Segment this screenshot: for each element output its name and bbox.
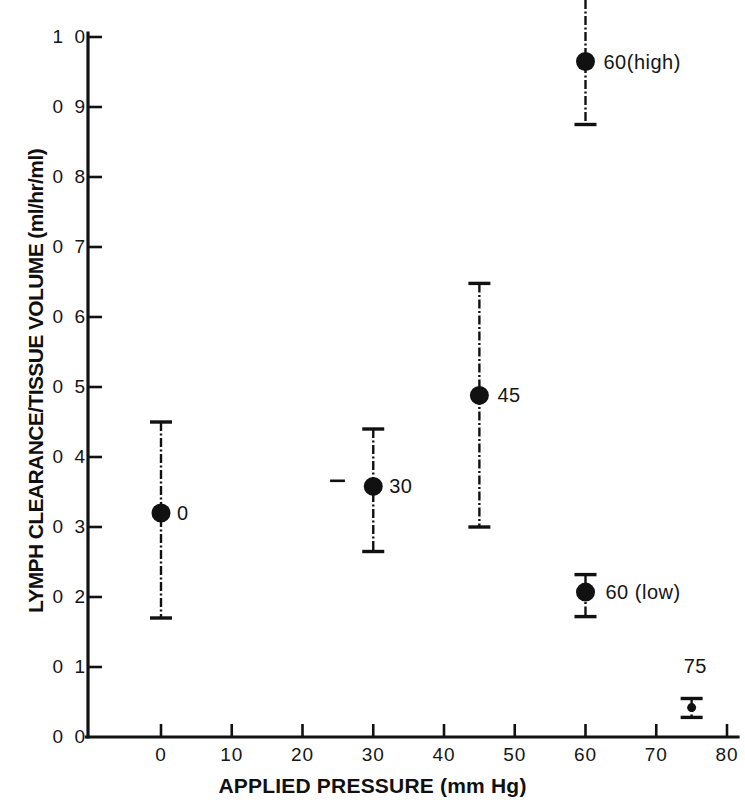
data-point-group: [362, 429, 384, 552]
x-tick-label: 60: [561, 744, 611, 766]
data-point-group: [468, 283, 490, 527]
x-tick-label: 20: [278, 744, 328, 766]
x-tick-label: 0: [136, 744, 186, 766]
data-point-marker[interactable]: [687, 703, 696, 712]
data-point-group: [681, 699, 703, 718]
data-point-marker[interactable]: [152, 504, 171, 523]
y-tick-label: 0 2: [16, 586, 88, 608]
x-tick-label: 50: [490, 744, 540, 766]
data-point-label: 60(high): [604, 50, 681, 73]
data-point-group: [575, 575, 597, 617]
data-point-marker[interactable]: [576, 52, 595, 71]
data-point-label: 30: [389, 475, 412, 498]
data-point-label: 60 (low): [606, 581, 681, 604]
y-tick-label: 0 0: [16, 726, 88, 748]
y-tick-label: 0 6: [16, 306, 88, 328]
y-tick-label: 0 1: [16, 656, 88, 678]
y-tick-label: 0 5: [16, 376, 88, 398]
y-tick-label: 0 4: [16, 446, 88, 468]
y-tick-label: 0 8: [16, 166, 88, 188]
data-point-label: 75: [684, 654, 707, 677]
y-tick-label: 0 9: [16, 96, 88, 118]
y-tick-label: 1 0: [16, 26, 88, 48]
x-tick-label: 10: [207, 744, 257, 766]
x-tick-label: 40: [419, 744, 469, 766]
x-tick-label: 80: [702, 744, 745, 766]
x-tick-label: 30: [348, 744, 398, 766]
data-point-label: 45: [497, 384, 520, 407]
data-point-label: 0: [177, 502, 189, 525]
data-point-group: [575, 0, 597, 125]
x-tick-label: 70: [631, 744, 681, 766]
data-point-marker[interactable]: [470, 386, 489, 405]
data-point-group: [150, 422, 172, 618]
y-tick-label: 0 7: [16, 236, 88, 258]
data-point-marker[interactable]: [364, 477, 383, 496]
y-tick-label: 0 3: [16, 516, 88, 538]
data-point-marker[interactable]: [576, 583, 595, 602]
chart-figure: LYMPH CLEARANCE/TISSUE VOLUME (ml/hr/ml)…: [0, 0, 745, 811]
plot-area: [0, 0, 745, 811]
